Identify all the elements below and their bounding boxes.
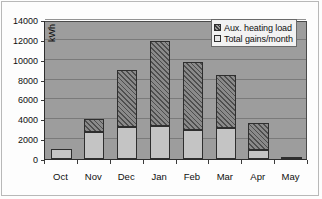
x-tick-mark bbox=[77, 160, 78, 164]
x-axis-labels: OctNovDecJanFebMarAprMay bbox=[44, 165, 307, 185]
x-tick-label: Jan bbox=[151, 171, 166, 182]
legend-label-gains: Total gains/month bbox=[224, 34, 293, 44]
y-tick-label: 10000 bbox=[0, 56, 38, 66]
y-tick-mark bbox=[41, 61, 44, 62]
bar-chart: kWh 02000400060008000100001200014000 Oct… bbox=[0, 0, 322, 199]
y-tick-label: 14000 bbox=[0, 16, 38, 26]
x-tick-mark bbox=[143, 160, 144, 164]
legend-item-aux-heating-load: Aux. heating load bbox=[214, 22, 293, 33]
y-tick-mark bbox=[41, 120, 44, 121]
legend-swatch-gains-icon bbox=[214, 35, 221, 42]
x-tick-mark bbox=[241, 160, 242, 164]
legend-item-total-gains: Total gains/month bbox=[214, 33, 293, 44]
y-tick-label: 2000 bbox=[0, 135, 38, 145]
x-tick-label: Apr bbox=[250, 171, 265, 182]
y-tick-label: 8000 bbox=[0, 76, 38, 86]
x-tick-mark bbox=[307, 160, 308, 164]
y-tick-mark bbox=[41, 140, 44, 141]
x-tick-mark bbox=[208, 160, 209, 164]
y-tick-mark bbox=[41, 81, 44, 82]
chart-legend: Aux. heating load Total gains/month bbox=[211, 19, 297, 47]
x-tick-label: Dec bbox=[118, 171, 135, 182]
x-tick-label: May bbox=[282, 171, 300, 182]
x-tick-mark bbox=[44, 160, 45, 164]
x-tick-mark bbox=[274, 160, 275, 164]
y-tick-label: 4000 bbox=[0, 115, 38, 125]
x-tick-label: Mar bbox=[217, 171, 233, 182]
y-tick-label: 0 bbox=[0, 155, 38, 165]
x-tick-label: Feb bbox=[184, 171, 200, 182]
legend-label-aux: Aux. heating load bbox=[224, 23, 292, 33]
x-tick-mark bbox=[176, 160, 177, 164]
y-tick-label: 6000 bbox=[0, 95, 38, 105]
y-tick-label: 12000 bbox=[0, 36, 38, 46]
x-tick-mark bbox=[110, 160, 111, 164]
y-tick-mark bbox=[41, 100, 44, 101]
y-tick-mark bbox=[41, 41, 44, 42]
legend-swatch-aux-icon bbox=[214, 24, 221, 31]
y-tick-mark bbox=[41, 21, 44, 22]
x-tick-label: Oct bbox=[53, 171, 68, 182]
x-tick-label: Nov bbox=[85, 171, 102, 182]
